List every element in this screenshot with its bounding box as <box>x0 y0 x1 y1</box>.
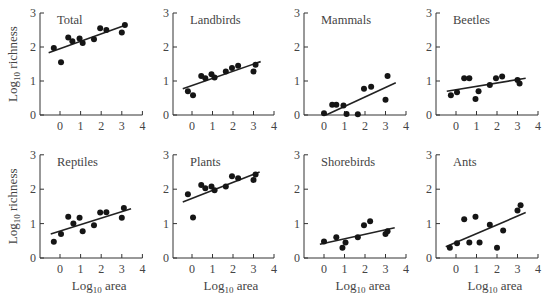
panel-title: Plants <box>190 155 221 169</box>
y-tick-label: 2 <box>163 40 169 54</box>
y-tick-label: 1 <box>30 74 36 88</box>
x-tick-label: 3 <box>383 119 389 133</box>
panel-plants: 012301234PlantsLog10 area <box>163 148 277 295</box>
panel-ants: 012301234AntsLog10 area <box>426 148 541 295</box>
data-point <box>235 175 241 181</box>
x-axis-label: Log10 area <box>72 278 127 295</box>
data-point <box>70 221 76 227</box>
panel-title: Ants <box>453 155 477 169</box>
y-tick-label: 0 <box>30 108 36 122</box>
x-tick-label: 3 <box>515 262 521 276</box>
x-tick-label: 1 <box>474 262 480 276</box>
data-point <box>185 88 191 94</box>
regression-line <box>49 25 126 53</box>
data-point <box>448 92 454 98</box>
data-point <box>343 240 349 246</box>
x-tick-label: 2 <box>362 262 368 276</box>
y-tick-label: 3 <box>30 6 36 20</box>
x-tick-label: 3 <box>515 119 521 133</box>
data-point <box>80 228 86 234</box>
x-tick-label: 4 <box>271 262 277 276</box>
data-point <box>251 177 257 183</box>
data-point <box>122 22 128 28</box>
x-tick-label: 2 <box>230 262 236 276</box>
x-tick-label: 4 <box>139 262 145 276</box>
y-tick-label: 3 <box>294 148 300 162</box>
data-point <box>385 228 391 234</box>
x-tick-label: 4 <box>535 262 541 276</box>
data-point <box>333 234 339 240</box>
y-tick-label: 1 <box>30 217 36 231</box>
data-point <box>361 86 367 92</box>
data-point <box>202 185 208 191</box>
data-point <box>190 214 196 220</box>
y-tick-label: 0 <box>426 251 432 265</box>
x-tick-label: 1 <box>342 262 348 276</box>
panel-total: 012301234TotalLog10 richness <box>5 6 145 133</box>
x-tick-label: 3 <box>119 262 125 276</box>
data-point <box>229 173 235 179</box>
data-point <box>461 75 467 81</box>
data-point <box>190 92 196 98</box>
x-tick-label: 3 <box>383 262 389 276</box>
data-point <box>58 59 64 65</box>
y-tick-label: 1 <box>294 74 300 88</box>
data-point <box>321 238 327 244</box>
data-point <box>466 75 472 81</box>
data-point <box>229 65 235 71</box>
y-tick-label: 3 <box>163 6 169 20</box>
y-tick-label: 2 <box>294 182 300 196</box>
y-tick-label: 2 <box>163 182 169 196</box>
data-point <box>472 96 478 102</box>
x-tick-label: 3 <box>119 119 125 133</box>
x-tick-label: 2 <box>494 262 500 276</box>
panel-mammals: 012301234Mammals <box>294 6 409 133</box>
y-tick-label: 1 <box>163 217 169 231</box>
x-axis-label: Log10 area <box>468 278 523 295</box>
data-point <box>185 191 191 197</box>
data-point <box>447 245 453 251</box>
x-tick-label: 0 <box>57 119 63 133</box>
data-point <box>97 210 103 216</box>
y-axis-label: Log10 richness <box>5 168 22 244</box>
x-tick-label: 2 <box>230 119 236 133</box>
y-tick-label: 0 <box>294 251 300 265</box>
data-point <box>51 239 57 245</box>
x-axis-label: Log10 area <box>336 278 391 295</box>
data-point <box>500 227 506 233</box>
panel-title: Total <box>57 13 83 27</box>
data-point <box>51 45 57 51</box>
data-point <box>517 80 523 86</box>
data-point <box>91 222 97 228</box>
x-tick-label: 4 <box>403 119 409 133</box>
y-tick-label: 3 <box>426 148 432 162</box>
x-tick-label: 2 <box>362 119 368 133</box>
y-tick-label: 2 <box>294 40 300 54</box>
y-tick-label: 1 <box>426 74 432 88</box>
regression-line <box>447 78 526 91</box>
panel-reptiles: 012301234ReptilesLog10 areaLog10 richnes… <box>5 148 145 295</box>
x-tick-label: 4 <box>271 119 277 133</box>
data-point <box>223 183 229 189</box>
data-point <box>223 68 229 74</box>
y-tick-label: 1 <box>163 74 169 88</box>
data-point <box>476 88 482 94</box>
x-tick-label: 0 <box>189 119 195 133</box>
y-tick-label: 0 <box>163 108 169 122</box>
x-tick-label: 1 <box>78 119 84 133</box>
data-point <box>103 209 109 215</box>
data-point <box>515 208 521 214</box>
y-tick-label: 3 <box>30 148 36 162</box>
data-point <box>368 84 374 90</box>
data-point <box>212 187 218 193</box>
x-tick-label: 4 <box>403 262 409 276</box>
x-tick-label: 0 <box>321 119 327 133</box>
y-tick-label: 0 <box>30 251 36 265</box>
data-point <box>65 214 71 220</box>
x-axis-label: Log10 area <box>204 278 259 295</box>
data-point <box>472 214 478 220</box>
y-tick-label: 2 <box>426 182 432 196</box>
data-point <box>454 89 460 95</box>
x-tick-label: 0 <box>321 262 327 276</box>
data-point <box>58 231 64 237</box>
